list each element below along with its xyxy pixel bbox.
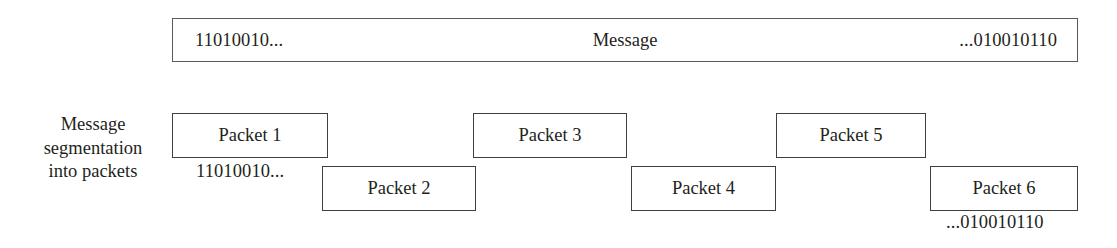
message-trailing-bits: ...010010110 bbox=[959, 30, 1057, 51]
message-segmentation-diagram: 11010010... Message ...010010110 Message… bbox=[0, 0, 1117, 248]
caption-line-1: Message bbox=[18, 113, 168, 137]
message-bar: 11010010... Message ...010010110 bbox=[172, 18, 1078, 62]
packet-box-3: Packet 3 bbox=[473, 113, 627, 158]
last-packet-bits-annotation: ...010010110 bbox=[946, 212, 1044, 233]
packet-box-6: Packet 6 bbox=[930, 166, 1078, 211]
message-bar-content: 11010010... Message ...010010110 bbox=[173, 19, 1077, 61]
message-label: Message bbox=[173, 30, 1077, 51]
caption-line-2: segmentation bbox=[18, 137, 168, 161]
packet-box-2: Packet 2 bbox=[322, 166, 476, 211]
packet-box-5: Packet 5 bbox=[776, 113, 926, 158]
packet-box-4: Packet 4 bbox=[631, 166, 776, 211]
first-packet-bits-annotation: 11010010... bbox=[196, 161, 284, 182]
segmentation-caption: Message segmentation into packets bbox=[18, 113, 168, 184]
packet-box-1: Packet 1 bbox=[172, 113, 328, 158]
caption-line-3: into packets bbox=[18, 160, 168, 184]
